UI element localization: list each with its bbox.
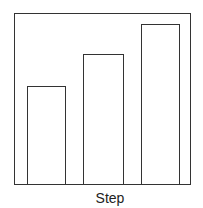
bar-3: [141, 24, 180, 184]
bar-2: [83, 54, 124, 184]
plot-area: [14, 13, 191, 185]
bar-1: [27, 86, 66, 184]
x-axis-label: Step: [0, 190, 203, 206]
